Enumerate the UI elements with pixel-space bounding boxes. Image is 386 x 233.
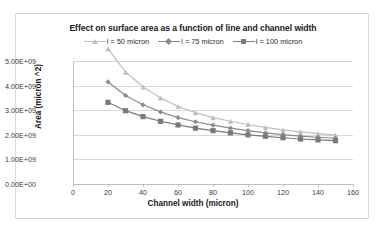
x-axis-title: Channel width (micron) <box>16 199 370 208</box>
series-marker <box>123 108 128 113</box>
series-marker <box>175 104 180 109</box>
series-marker <box>228 130 233 135</box>
series-marker <box>298 136 303 141</box>
series-line <box>108 49 336 135</box>
legend-marker-square-icon <box>233 37 255 46</box>
chart-container: Effect on surface area as a function of … <box>15 13 369 219</box>
series-marker <box>105 100 110 105</box>
series-marker <box>140 114 145 119</box>
x-axis-tick-label: 60 <box>165 188 191 197</box>
y-axis-tick-label: 5.00E+09 <box>0 57 36 66</box>
y-axis-tick-label: 4.00E+09 <box>0 82 36 91</box>
series-marker <box>210 123 215 128</box>
series-marker <box>228 126 233 131</box>
series-marker <box>245 132 250 137</box>
y-axis-tick-label: 2.00E+09 <box>0 131 36 140</box>
chart-legend: l = 50 micron l = 75 micron l = 100 micr… <box>16 37 370 46</box>
series-marker <box>175 115 180 120</box>
x-axis-tick-mark <box>353 184 354 187</box>
series-marker <box>333 138 338 143</box>
legend-item-l-100[interactable]: l = 100 micron <box>233 37 303 46</box>
series-marker <box>263 134 268 139</box>
x-axis-tick-label: 40 <box>130 188 156 197</box>
series-marker <box>158 109 163 114</box>
legend-label-l-100: l = 100 micron <box>256 37 303 46</box>
series-marker <box>193 126 198 131</box>
x-axis-tick-label: 120 <box>270 188 296 197</box>
series-marker <box>158 119 163 124</box>
x-axis-tick-label: 140 <box>305 188 331 197</box>
legend-label-l-75: l = 75 micron <box>181 37 224 46</box>
series-marker <box>210 128 215 133</box>
legend-item-l-50[interactable]: l = 50 micron <box>84 37 150 46</box>
x-axis-tick-label: 0 <box>60 188 86 197</box>
x-axis-tick-label: 160 <box>340 188 366 197</box>
series-marker <box>175 122 180 127</box>
y-axis-tick-label: 3.00E+09 <box>0 106 36 115</box>
y-axis-tick-label: 0.00E+00 <box>0 180 36 189</box>
legend-item-l-75[interactable]: l = 75 micron <box>158 37 224 46</box>
x-axis-tick-label: 20 <box>95 188 121 197</box>
series-marker <box>193 119 198 124</box>
x-axis-tick-label: 80 <box>200 188 226 197</box>
y-axis-tick-label: 1.00E+09 <box>0 155 36 164</box>
series-marker <box>315 137 320 142</box>
legend-marker-diamond-icon <box>158 37 180 46</box>
series-line <box>108 82 336 138</box>
series-marker <box>280 135 285 140</box>
data-series <box>105 46 338 138</box>
legend-label-l-50: l = 50 micron <box>107 37 150 46</box>
data-series-layer <box>73 61 353 184</box>
x-axis-tick-label: 100 <box>235 188 261 197</box>
plot-area <box>73 61 353 184</box>
legend-marker-triangle-icon <box>84 37 106 46</box>
x-axis-line <box>73 184 353 185</box>
series-marker <box>140 102 145 107</box>
series-marker <box>105 46 110 51</box>
chart-title: Effect on surface area as a function of … <box>16 23 370 33</box>
